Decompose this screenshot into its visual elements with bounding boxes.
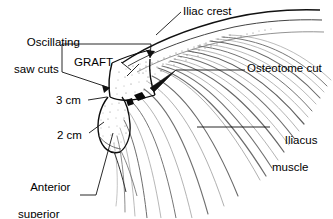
graft-stipple <box>116 62 148 95</box>
label-iliac-crest: Iliac crest <box>183 5 232 19</box>
label-oscillating-saw-cuts-line2: saw cuts <box>14 63 80 77</box>
label-measure-3cm: 3 cm <box>56 94 81 108</box>
label-iliacus-muscle-line1: Iliacus <box>285 134 318 146</box>
label-iliacus-muscle: Iliacus muscle <box>272 120 317 201</box>
leader-asis <box>80 133 113 195</box>
figure-container: Oscillating saw cuts GRAFT 3 cm 2 cm Ant… <box>0 0 333 218</box>
leader-3cm <box>88 97 107 100</box>
leader-iliac-crest <box>156 12 181 35</box>
asis-stipple <box>101 103 127 150</box>
arrowhead-osteotome-cut <box>150 70 176 92</box>
label-oscillating-saw-cuts: Oscillating saw cuts <box>14 22 80 103</box>
arrowhead-saw-cut-upper <box>146 50 155 58</box>
leader-2cm <box>89 122 104 133</box>
label-iliacus-muscle-line2: muscle <box>272 161 317 175</box>
label-graft: GRAFT <box>74 56 113 70</box>
label-osteotome-cut: Osteotome cut <box>247 62 322 76</box>
label-anterior-superior-iliac-spine: Anterior superior iliac spine <box>18 167 70 218</box>
leader-graft <box>121 62 139 76</box>
label-asis-line1: Anterior <box>30 181 70 193</box>
label-asis-line2: superior <box>18 208 70 219</box>
label-oscillating-saw-cuts-line1: Oscillating <box>27 36 80 48</box>
label-measure-2cm: 2 cm <box>57 129 82 143</box>
